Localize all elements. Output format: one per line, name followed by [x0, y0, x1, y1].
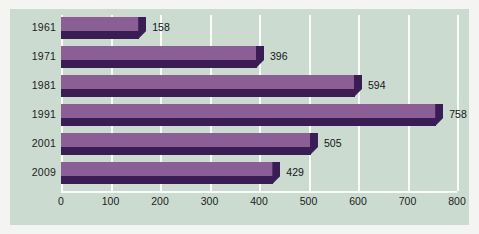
bar-end-cap [354, 75, 362, 97]
bar-value-label: 505 [324, 137, 342, 149]
bars-group: 1961158197139619815941991758200150520094… [10, 9, 469, 225]
bar-shadow-face [61, 118, 436, 126]
x-tick-0: 0 [58, 195, 64, 207]
category-label: 1981 [12, 79, 56, 91]
bar-row: 1961158 [10, 15, 469, 44]
bar-row: 1981594 [10, 73, 469, 102]
bar-top-face [61, 75, 355, 89]
bar-end-cap [310, 133, 318, 155]
bar-value-label: 429 [286, 166, 304, 178]
x-tick-500: 500 [300, 195, 318, 207]
bar-shadow-face [61, 176, 273, 184]
category-label: 1961 [12, 21, 56, 33]
category-label: 2001 [12, 137, 56, 149]
category-label: 1991 [12, 108, 56, 120]
bar-shadow-face [61, 147, 311, 155]
bar-top-face [61, 162, 273, 176]
category-label: 1971 [12, 50, 56, 62]
bar-end-cap [138, 17, 146, 39]
bar-value-label: 158 [152, 21, 170, 33]
bar-1991 [61, 104, 436, 127]
bar-1961 [61, 17, 139, 40]
bar-row: 2009429 [10, 160, 469, 189]
bar-2001 [61, 133, 311, 156]
bar-top-face [61, 133, 311, 147]
x-tick-800: 800 [448, 195, 466, 207]
bar-end-cap [435, 104, 443, 126]
x-tick-200: 200 [151, 195, 169, 207]
bar-2009 [61, 162, 273, 185]
bar-1971 [61, 46, 257, 69]
bar-1981 [61, 75, 355, 98]
bar-shadow-face [61, 31, 139, 39]
bar-top-face [61, 46, 257, 60]
x-tick-100: 100 [102, 195, 120, 207]
x-axis-tick-labels: 0100200300400500600700800 [10, 195, 469, 215]
x-tick-400: 400 [250, 195, 268, 207]
bar-end-cap [272, 162, 280, 184]
bar-value-label: 594 [368, 79, 386, 91]
x-tick-700: 700 [399, 195, 417, 207]
bar-shadow-face [61, 60, 257, 68]
bar-end-cap [256, 46, 264, 68]
category-label: 2009 [12, 166, 56, 178]
bar-value-label: 758 [449, 108, 467, 120]
bar-top-face [61, 104, 436, 118]
bar-top-face [61, 17, 139, 31]
bar-row: 2001505 [10, 131, 469, 160]
plot-panel: 1961158197139619815941991758200150520094… [10, 9, 469, 225]
bar-row: 1971396 [10, 44, 469, 73]
x-tick-600: 600 [349, 195, 367, 207]
bar-shadow-face [61, 89, 355, 97]
x-tick-300: 300 [201, 195, 219, 207]
bar-row: 1991758 [10, 102, 469, 131]
bar-value-label: 396 [270, 50, 288, 62]
chart-figure: 1961158197139619815941991758200150520094… [0, 0, 479, 234]
